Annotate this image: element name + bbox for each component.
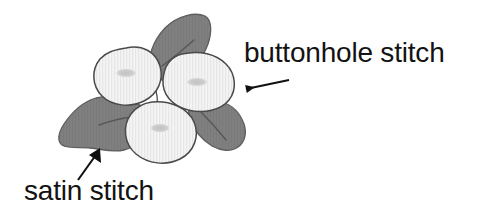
satin-stitch-label: satin stitch <box>24 176 154 206</box>
buttonhole-stitch-label: buttonhole stitch <box>244 38 445 68</box>
petal-left <box>94 47 161 105</box>
buttonhole-arrow <box>246 80 289 89</box>
petal-right-center <box>187 78 207 86</box>
petal-right <box>163 52 234 111</box>
petal-bottom-center <box>151 124 170 132</box>
petal-bottom <box>125 102 196 163</box>
figure-canvas: buttonhole stitch satin stitch <box>0 0 477 215</box>
petal-left-center <box>116 69 136 77</box>
